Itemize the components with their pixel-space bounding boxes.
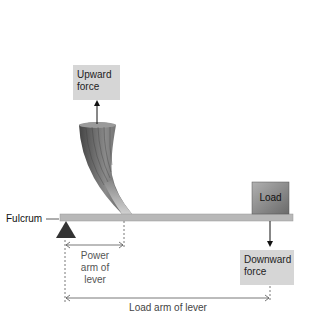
power-arm-line-3: lever xyxy=(74,274,116,286)
fulcrum-label: Fulcrum xyxy=(6,213,42,225)
upward-force-line-1: Upward xyxy=(77,69,116,81)
load-label: Load xyxy=(252,192,289,204)
power-arm-label: Power arm of lever xyxy=(74,250,116,286)
load-arm-label: Load arm of lever xyxy=(66,302,270,314)
lever-bar xyxy=(60,214,293,221)
power-arm-line-2: arm of xyxy=(74,262,116,274)
upward-force-label: Upward force xyxy=(73,65,120,100)
power-arm-line-1: Power xyxy=(74,250,116,262)
downward-force-label: Downward force xyxy=(240,250,294,285)
muscle-icon xyxy=(79,122,132,214)
upward-force-line-2: force xyxy=(77,81,116,93)
downward-force-line-1: Downward xyxy=(244,254,290,266)
downward-force-line-2: force xyxy=(244,266,290,278)
fulcrum-triangle xyxy=(56,221,76,238)
